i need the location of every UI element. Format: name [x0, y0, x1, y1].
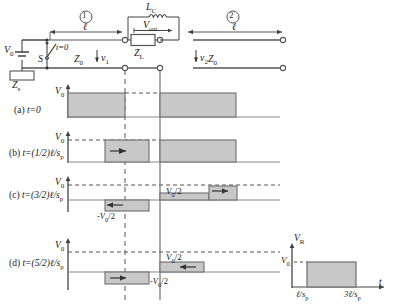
panel-c-pulse-step-high — [209, 186, 237, 200]
terminal-2-bottom — [157, 65, 162, 70]
inset-x-axis-label: t — [379, 277, 382, 287]
terminal-3-top — [280, 37, 285, 42]
panel-c-y-arrow — [66, 176, 71, 181]
inset-tick-start-label: ℓ/sp — [296, 289, 308, 301]
load-impedance-label: ZL — [134, 47, 144, 61]
inset-pulse — [307, 262, 356, 287]
source-voltage-label: V0 — [4, 44, 14, 58]
length-2-label: ℓ — [232, 21, 236, 32]
inset-plot — [290, 243, 384, 289]
panel-b-y-arrow — [66, 131, 71, 136]
panel-a-caption: (a) t=0 — [14, 105, 41, 115]
panel-d-y-arrow — [66, 238, 71, 243]
panel-a-pulse-right — [160, 93, 236, 117]
switch-time-label: t=0 — [56, 42, 68, 52]
inductor-label: LC — [146, 1, 156, 15]
panel-a-y-arrow — [66, 84, 71, 89]
panel-d-positive-half-label: V0/2 — [166, 252, 182, 264]
panel-a — [66, 84, 280, 118]
source-impedance-label: Zs — [12, 79, 20, 93]
switch-blade — [47, 44, 56, 57]
panel-d — [66, 238, 280, 290]
panel-d-caption: (d) t=(5/2)ℓ/sp — [9, 258, 64, 271]
panel-c-negative-half-label: -V0/2 — [97, 211, 115, 223]
v2-probe-arrow — [194, 58, 198, 63]
length-1-label: ℓ — [83, 21, 87, 32]
panel-a-pulse-left — [68, 93, 125, 117]
inset-level-label: V0 — [281, 255, 290, 267]
switch-node-bottom — [45, 66, 48, 69]
terminal-1-top — [122, 37, 127, 42]
panel-b-caption: (b) t=(1/2)ℓ/sp — [9, 148, 64, 161]
terminal-1-bottom — [122, 65, 127, 70]
segment-2-number: 2 — [229, 10, 234, 20]
v1-probe-arrow — [95, 58, 99, 63]
length2-arrow-right — [277, 30, 282, 34]
vout-label: Vout — [143, 19, 157, 32]
load-impedance-box — [131, 35, 155, 46]
switch-node-top — [45, 38, 48, 41]
panel-a-y-label: V0 — [55, 86, 64, 99]
v2-label: v2 — [200, 52, 208, 66]
vout-arrow-right — [168, 29, 172, 33]
z0-left-label: Z0 — [74, 53, 83, 67]
length1-arrow-right — [117, 30, 122, 34]
panel-c-caption: (c) t=(3/2)ℓ/sp — [9, 190, 63, 203]
terminal-3-bottom — [280, 65, 285, 70]
panel-d-negative-half-label: -V0/2 — [150, 276, 168, 288]
panel-c-y-label: V0 — [55, 177, 64, 190]
inset-y-axis-label: VR — [294, 233, 304, 246]
inset-tick-end-label: 3ℓ/sp — [344, 289, 361, 301]
panel-c-positive-half-label: V0/2 — [166, 186, 182, 198]
length2-arrow-left — [188, 30, 193, 34]
segment-1-number: 1 — [82, 10, 87, 20]
switch-label: S — [38, 53, 43, 64]
panel-b-pulse-right — [160, 140, 236, 162]
length1-arrow-left — [50, 30, 55, 34]
v1-label: v1 — [101, 52, 109, 66]
panel-b-y-label: V0 — [55, 132, 64, 145]
panel-b — [66, 131, 280, 163]
z0-right-label: Z0 — [208, 53, 217, 67]
panel-d-y-label: V0 — [55, 240, 64, 253]
